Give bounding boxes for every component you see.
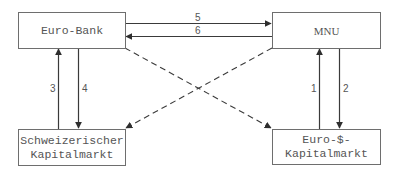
edge-label-3: 3 [50,84,56,94]
node-euro-bank: Euro-Bank [18,12,126,49]
flow-diagram: Euro-Bank MNU Schweizerischer Kapitalmar… [0,0,396,176]
node-euro-dollar-kapitalmarkt: Euro-$- Kapitalmarkt [272,129,381,165]
node-label: Euro-$- Kapitalmarkt [285,133,368,161]
edge-label-1: 1 [311,84,317,94]
node-schweizerischer-kapitalmarkt: Schweizerischer Kapitalmarkt [18,129,126,166]
edge-label-4: 4 [82,84,88,94]
node-label: Euro-Bank [41,24,103,38]
edge-label-6: 6 [195,26,201,36]
node-label: Schweizerischer Kapitalmarkt [20,134,124,162]
node-mnu: MNU [272,12,381,49]
node-label: MNU [314,24,340,38]
edge-label-2: 2 [343,84,349,94]
edge-label-5: 5 [195,13,201,23]
